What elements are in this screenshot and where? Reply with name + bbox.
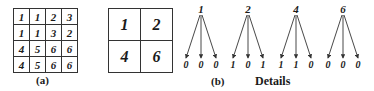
tree-4: 6 0 0 0 (326, 3, 361, 70)
tree-leaf: 0 (309, 59, 314, 70)
tree-3: 4 1 1 0 (279, 3, 314, 70)
tree-leaf: 1 (261, 59, 266, 70)
details-label: Details (255, 74, 290, 89)
tree-leaf: 0 (356, 59, 361, 70)
tree-root: 1 (198, 3, 204, 15)
details-trees: 1 0 0 0 2 1 0 1 4 1 1 0 6 0 0 0 (0, 0, 374, 91)
tree-1: 1 0 0 0 (184, 3, 219, 70)
tree-root: 4 (292, 3, 299, 15)
tree-leaf: 0 (326, 59, 331, 70)
tree-root: 2 (244, 3, 251, 15)
tree-leaf: 0 (184, 59, 189, 70)
tree-leaf: 1 (279, 59, 284, 70)
tree-leaf: 0 (214, 59, 219, 70)
tree-leaf: 1 (294, 59, 299, 70)
tree-leaf: 0 (246, 59, 251, 70)
tree-root: 6 (340, 3, 346, 15)
tree-leaf: 0 (341, 59, 346, 70)
tree-leaf: 1 (231, 59, 236, 70)
tree-leaf: 0 (199, 59, 204, 70)
tree-2: 2 1 0 1 (231, 3, 266, 70)
